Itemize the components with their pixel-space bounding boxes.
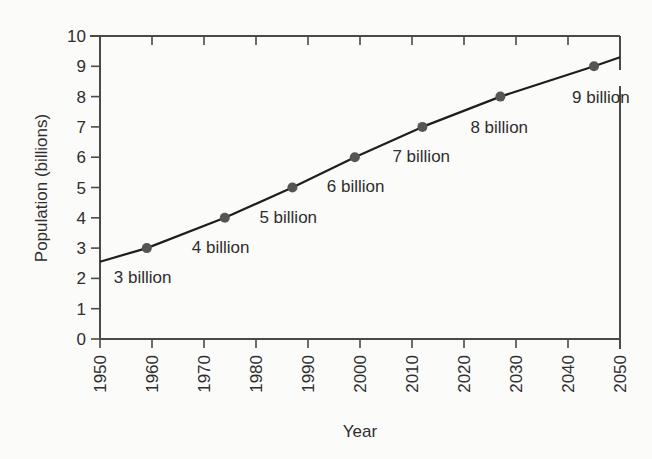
milestone-markers: 3 billion4 billion5 billion6 billion7 bi…	[114, 61, 630, 287]
milestone-label: 3 billion	[114, 268, 172, 287]
x-tick-label: 1990	[299, 355, 318, 393]
y-tick-label: 1	[77, 300, 86, 319]
x-tick-label: 1980	[247, 355, 266, 393]
y-tick-label: 6	[77, 148, 86, 167]
milestone-marker	[142, 243, 152, 253]
population-line-chart: 012345678910 195019601970198019902000201…	[0, 0, 652, 459]
milestone-marker	[350, 152, 360, 162]
x-tick-label: 2010	[403, 355, 422, 393]
x-tick-label: 1960	[143, 355, 162, 393]
y-axis-title: Population (billions)	[32, 114, 51, 262]
milestone-label: 8 billion	[470, 118, 528, 137]
milestone-label: 9 billion	[572, 88, 630, 107]
y-tick-label: 7	[77, 118, 86, 137]
x-axis-title: Year	[343, 422, 378, 441]
y-tick-label: 9	[77, 57, 86, 76]
x-tick-label: 2050	[611, 355, 630, 393]
milestone-label: 4 billion	[192, 238, 250, 257]
y-tick-label: 2	[77, 269, 86, 288]
y-axis-ticks: 012345678910	[67, 27, 100, 349]
y-tick-label: 3	[77, 239, 86, 258]
x-tick-label: 1970	[195, 355, 214, 393]
y-tick-label: 10	[67, 27, 86, 46]
x-tick-label: 2030	[507, 355, 526, 393]
milestone-marker	[495, 92, 505, 102]
milestone-marker	[220, 213, 230, 223]
x-tick-label: 2000	[351, 355, 370, 393]
series-world-population	[100, 57, 620, 262]
population-line	[100, 57, 620, 262]
x-tick-label: 2020	[455, 355, 474, 393]
y-tick-label: 0	[77, 330, 86, 349]
y-tick-label: 4	[77, 209, 86, 228]
milestone-label: 6 billion	[327, 177, 385, 196]
x-tick-label: 1950	[91, 355, 110, 393]
milestone-marker	[417, 122, 427, 132]
y-tick-label: 5	[77, 179, 86, 198]
milestone-label: 5 billion	[259, 208, 317, 227]
milestone-marker	[589, 61, 599, 71]
y-tick-label: 8	[77, 88, 86, 107]
milestone-marker	[287, 183, 297, 193]
milestone-label: 7 billion	[392, 147, 450, 166]
x-tick-label: 2040	[559, 355, 578, 393]
